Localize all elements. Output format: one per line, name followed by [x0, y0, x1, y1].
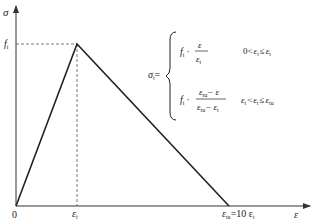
case1-coef: ft·: [180, 46, 190, 58]
case2-numerator: εtu− ε: [199, 87, 220, 98]
stress-strain-curve: [16, 44, 229, 206]
piecewise-equation: σt= ft· ε εt 0<εt≤εt ft· εtu− ε εtu− εt …: [148, 32, 274, 120]
stress-strain-diagram: σ ε 0 ft εt εtu=10 εt σt= ft· ε εt 0<εt≤…: [0, 0, 312, 224]
x-end-label: εtu=10 εt: [222, 208, 255, 220]
equation-lhs: σt=: [148, 69, 161, 81]
case2-denominator: εtu− εt: [197, 102, 219, 113]
origin-label: 0: [12, 209, 17, 220]
x-axis-label: ε: [294, 209, 298, 220]
case2-condition: εt<εt≤εtu: [241, 95, 274, 106]
x-peak-label: εt: [72, 208, 78, 220]
case2-coef: ft·: [180, 94, 190, 106]
y-axis-label: σ: [3, 6, 9, 18]
case1-denominator: εt: [196, 54, 202, 65]
brace: [166, 32, 176, 120]
y-peak-label: ft: [4, 38, 9, 50]
case1-numerator: ε: [198, 40, 202, 50]
case1-condition: 0<εt≤εt: [243, 46, 271, 57]
